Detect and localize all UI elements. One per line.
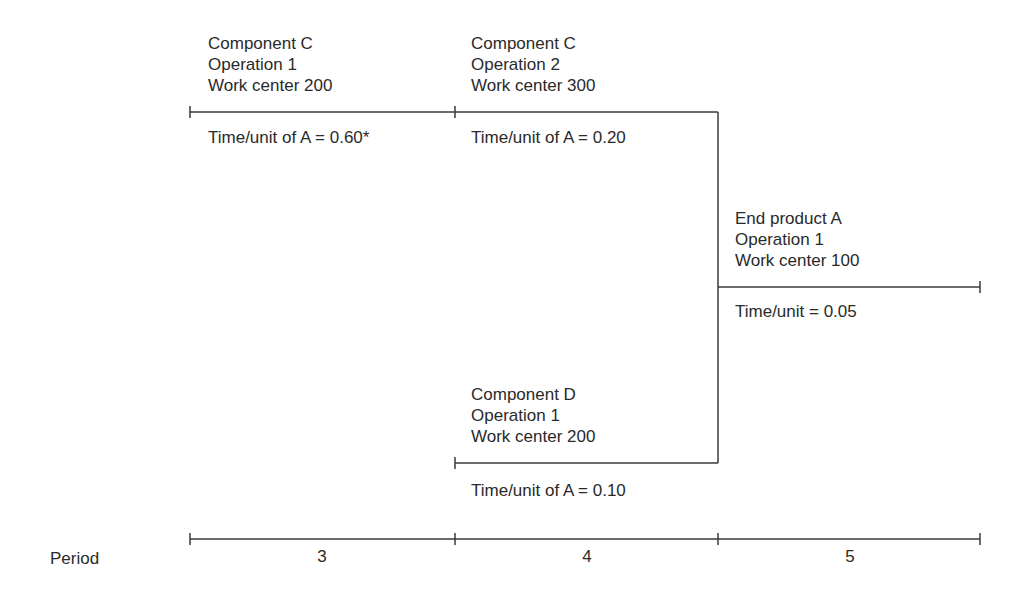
work-center-label: Work center 100 bbox=[735, 250, 859, 271]
operation-label: Operation 1 bbox=[471, 405, 595, 426]
time-per-unit-comp-c-op2: Time/unit of A = 0.20 bbox=[471, 128, 626, 148]
time-per-unit-end-product-a: Time/unit = 0.05 bbox=[735, 302, 857, 322]
period-3-label: 3 bbox=[302, 547, 342, 567]
operation-comp-d-op1: Component D Operation 1 Work center 200 bbox=[471, 384, 595, 447]
period-axis-label: Period bbox=[50, 549, 99, 569]
operation-comp-c-op2: Component C Operation 2 Work center 300 bbox=[471, 33, 595, 96]
period-5-label: 5 bbox=[830, 547, 870, 567]
time-per-unit-comp-c-op1: Time/unit of A = 0.60* bbox=[208, 128, 369, 148]
item-label: Component D bbox=[471, 384, 595, 405]
operation-label: Operation 1 bbox=[208, 54, 332, 75]
operation-label: Operation 1 bbox=[735, 229, 859, 250]
work-center-label: Work center 200 bbox=[208, 75, 332, 96]
operation-end-product-a-op1: End product A Operation 1 Work center 10… bbox=[735, 208, 859, 271]
item-label: End product A bbox=[735, 208, 859, 229]
time-per-unit-comp-d-op1: Time/unit of A = 0.10 bbox=[471, 481, 626, 501]
item-label: Component C bbox=[471, 33, 595, 54]
operation-label: Operation 2 bbox=[471, 54, 595, 75]
work-center-label: Work center 300 bbox=[471, 75, 595, 96]
work-center-label: Work center 200 bbox=[471, 426, 595, 447]
operation-comp-c-op1: Component C Operation 1 Work center 200 bbox=[208, 33, 332, 96]
item-label: Component C bbox=[208, 33, 332, 54]
period-4-label: 4 bbox=[567, 547, 607, 567]
